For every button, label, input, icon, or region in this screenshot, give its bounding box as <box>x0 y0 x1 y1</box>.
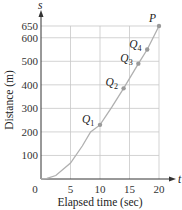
y-axis-arrow-icon <box>39 10 44 17</box>
point-marker <box>136 61 140 65</box>
point-label: Q2 <box>106 76 118 91</box>
y-axis-symbol: s <box>38 0 43 11</box>
x-axis-label: Elapsed time (sec) <box>58 196 143 209</box>
axes: t s <box>38 0 182 185</box>
y-tick-label: 200 <box>22 126 39 138</box>
point-label: Q3 <box>120 52 132 67</box>
secant-points: Q1Q2Q3Q4P <box>82 12 161 128</box>
x-tick-label: 0 <box>32 183 38 195</box>
x-tick-label: 10 <box>95 183 107 195</box>
point-label: Q1 <box>82 113 94 128</box>
x-axis-arrow-icon <box>169 177 176 182</box>
point-marker <box>157 24 161 28</box>
point-marker <box>121 86 125 90</box>
point-marker <box>98 123 102 127</box>
y-tick-label: 100 <box>22 149 39 161</box>
distance-time-chart: t s 05101520 100200300400500600650 Q1Q2Q… <box>0 0 182 210</box>
y-tick-label: 500 <box>22 55 39 67</box>
point-label: Q4 <box>129 38 141 53</box>
x-tick-label: 20 <box>154 183 166 195</box>
y-tick-labels: 100200300400500600650 <box>22 20 39 161</box>
x-tick-label: 5 <box>68 183 74 195</box>
x-axis-symbol: t <box>178 173 182 185</box>
y-axis-label: Distance (m) <box>3 70 16 130</box>
y-tick-label: 650 <box>22 20 39 32</box>
y-tick-label: 300 <box>22 102 39 114</box>
y-tick-label: 600 <box>22 32 39 44</box>
x-tick-labels: 05101520 <box>32 183 165 195</box>
x-tick-label: 15 <box>124 183 136 195</box>
point-marker <box>145 47 149 51</box>
y-tick-label: 400 <box>22 79 39 91</box>
point-label: P <box>148 12 156 24</box>
